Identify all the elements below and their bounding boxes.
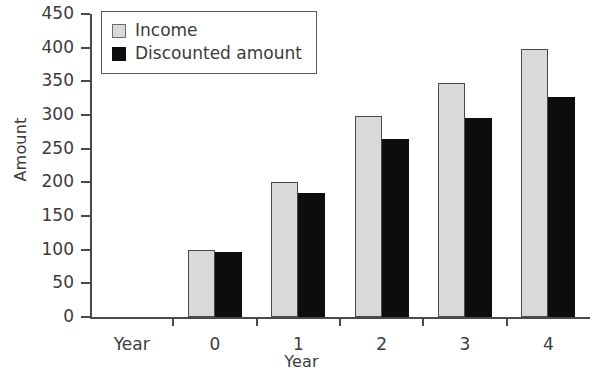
legend-label-discounted-amount: Discounted amount	[135, 45, 302, 62]
bar-income-1	[271, 182, 298, 317]
y-axis-label: 400	[14, 39, 74, 56]
bar-income-0	[188, 250, 215, 317]
bar-income-2	[355, 116, 382, 317]
x-axis-tick	[339, 317, 341, 326]
bar-discounted-0	[215, 252, 242, 317]
x-axis-label: 1	[253, 336, 343, 353]
legend-item-income: Income	[112, 19, 302, 42]
x-axis-label: 4	[503, 336, 593, 353]
y-axis-tick	[81, 181, 90, 183]
y-axis-tick	[81, 114, 90, 116]
x-axis-tick	[422, 317, 424, 326]
y-axis-label: 50	[14, 274, 74, 291]
bar-discounted-3	[465, 118, 492, 317]
y-axis-label: 0	[14, 308, 74, 325]
y-axis-label: 250	[14, 140, 74, 157]
x-axis-tick	[172, 317, 174, 326]
bar-discounted-4	[548, 97, 575, 317]
x-axis-label: 2	[337, 336, 427, 353]
legend-swatch-income-icon	[112, 24, 126, 38]
bar-income-3	[438, 83, 465, 317]
y-axis-label: 100	[14, 241, 74, 258]
x-axis-label: 3	[420, 336, 510, 353]
y-axis-label: 150	[14, 207, 74, 224]
x-axis-title: Year	[0, 352, 603, 371]
bar-discounted-2	[382, 139, 409, 317]
legend-swatch-discounted-icon	[112, 47, 126, 61]
y-axis-tick	[81, 215, 90, 217]
y-axis-tick	[81, 13, 90, 15]
legend: Income Discounted amount	[101, 11, 317, 74]
x-axis-label: 0	[170, 336, 260, 353]
legend-item-discounted-amount: Discounted amount	[112, 42, 302, 65]
bar-income-4	[521, 49, 548, 317]
y-axis-label: 350	[14, 72, 74, 89]
y-axis-tick	[81, 316, 90, 318]
y-axis-label: 450	[14, 5, 74, 22]
y-axis-tick	[81, 282, 90, 284]
y-axis-label: 200	[14, 173, 74, 190]
y-axis-tick	[81, 47, 90, 49]
y-axis-tick	[81, 249, 90, 251]
y-axis-tick	[81, 148, 90, 150]
y-axis-tick	[81, 80, 90, 82]
bar-chart: Amount Year 050100150200250300350400450 …	[0, 0, 603, 379]
legend-label-income: Income	[135, 22, 198, 39]
x-axis-tick	[256, 317, 258, 326]
y-axis-label: 300	[14, 106, 74, 123]
bar-discounted-1	[298, 193, 325, 317]
x-axis-tick	[506, 317, 508, 326]
y-axis-line	[90, 14, 92, 318]
x-axis-label: Year	[87, 336, 177, 353]
